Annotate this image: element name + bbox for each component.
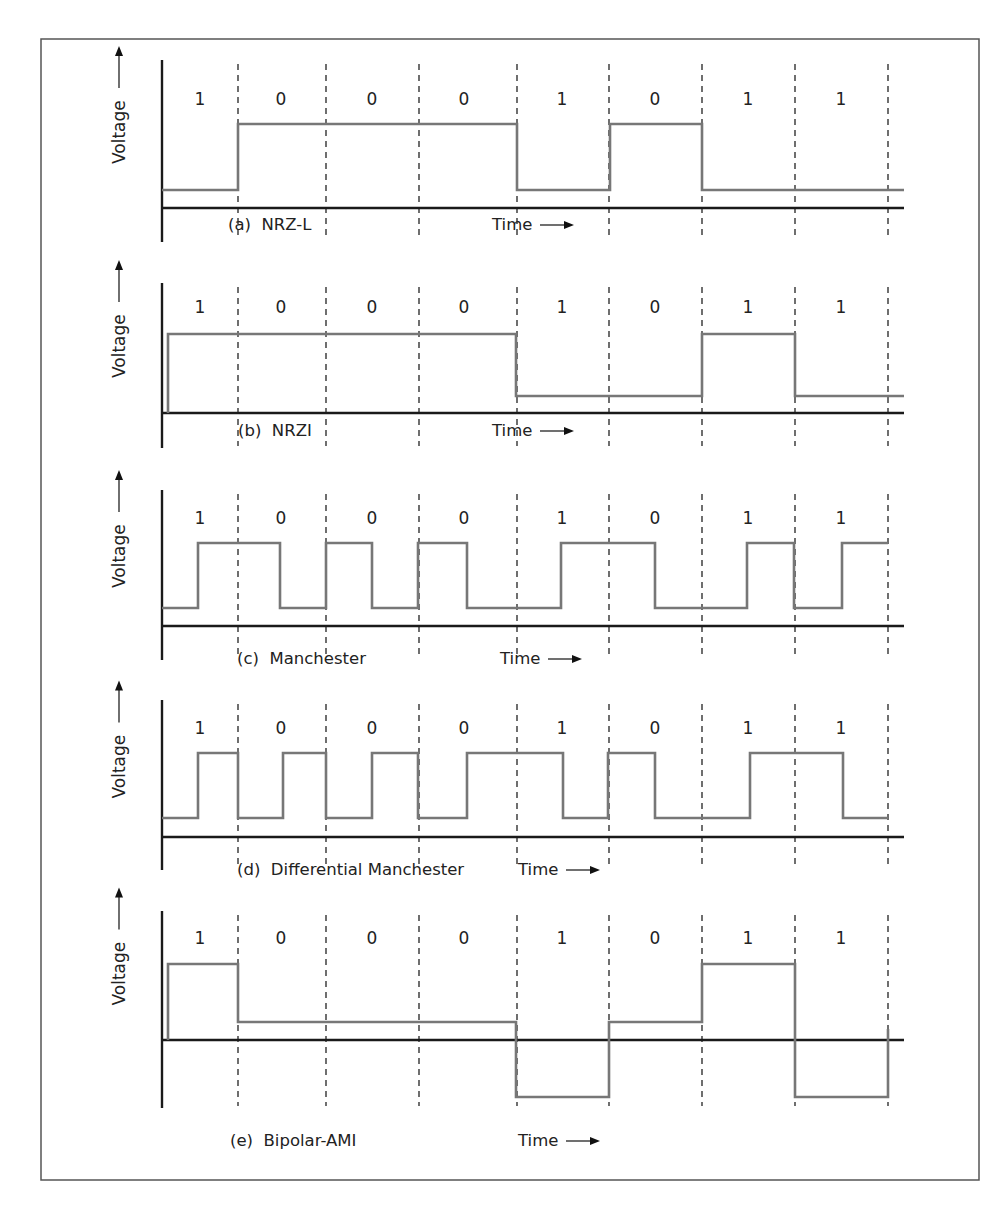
bit-label: 1 (557, 718, 568, 738)
bit-label: 1 (557, 89, 568, 109)
arrow-right-icon (564, 427, 574, 435)
panel-caption: (a) NRZ-L (228, 215, 312, 234)
bit-label: 0 (459, 718, 470, 738)
signal-waveform (168, 964, 888, 1097)
signal-waveform (162, 753, 888, 818)
bit-label: 1 (557, 508, 568, 528)
bit-label: 0 (367, 89, 378, 109)
arrow-up-icon (115, 681, 123, 691)
voltage-label: Voltage (109, 100, 129, 164)
signal-waveform (162, 543, 888, 608)
bit-label: 0 (459, 928, 470, 948)
bit-label: 1 (195, 928, 206, 948)
arrow-right-icon (572, 655, 582, 663)
bit-label: 1 (836, 928, 847, 948)
bit-label: 0 (276, 928, 287, 948)
bit-label: 0 (650, 508, 661, 528)
panel-caption: (b) NRZI (238, 421, 312, 440)
bit-label: 0 (650, 89, 661, 109)
panel-caption: (c) Manchester (237, 649, 366, 668)
bit-label: 0 (459, 89, 470, 109)
bit-label: 0 (459, 297, 470, 317)
signal-waveform (162, 124, 904, 190)
time-label: Time (491, 421, 532, 440)
bit-label: 0 (367, 928, 378, 948)
arrow-up-icon (115, 260, 123, 270)
panel-caption: (d) Differential Manchester (237, 860, 464, 879)
voltage-label: Voltage (109, 524, 129, 588)
bit-label: 0 (650, 928, 661, 948)
bit-label: 1 (743, 89, 754, 109)
voltage-label: Voltage (109, 314, 129, 378)
panel-caption: (e) Bipolar-AMI (230, 1131, 356, 1150)
time-label: Time (517, 860, 558, 879)
bit-label: 1 (836, 508, 847, 528)
arrow-up-icon (115, 46, 123, 56)
bit-label: 1 (195, 297, 206, 317)
arrow-up-icon (115, 888, 123, 898)
arrow-right-icon (590, 1137, 600, 1145)
bit-label: 0 (459, 508, 470, 528)
bit-label: 0 (367, 508, 378, 528)
bit-label: 0 (276, 508, 287, 528)
bit-label: 0 (650, 297, 661, 317)
panel-c: 10001011Voltage(c) ManchesterTime (109, 470, 904, 668)
time-label: Time (499, 649, 540, 668)
bit-label: 1 (195, 718, 206, 738)
bit-label: 0 (650, 718, 661, 738)
voltage-label: Voltage (109, 942, 129, 1006)
time-label: Time (517, 1131, 558, 1150)
bit-label: 0 (276, 718, 287, 738)
bit-label: 1 (836, 718, 847, 738)
bit-label: 1 (743, 718, 754, 738)
bit-label: 0 (367, 297, 378, 317)
voltage-label: Voltage (109, 735, 129, 799)
bit-label: 1 (836, 89, 847, 109)
arrow-right-icon (564, 221, 574, 229)
time-label: Time (491, 215, 532, 234)
panel-e: 10001011Voltage(e) Bipolar-AMITime (109, 888, 904, 1151)
panels-container: 10001011Voltage(a) NRZ-LTime10001011Volt… (109, 46, 904, 1150)
bit-label: 1 (195, 508, 206, 528)
bit-label: 1 (557, 297, 568, 317)
bit-label: 1 (195, 89, 206, 109)
line-coding-diagram: 10001011Voltage(a) NRZ-LTime10001011Volt… (0, 0, 1005, 1206)
bit-label: 1 (743, 297, 754, 317)
bit-label: 0 (276, 89, 287, 109)
panel-b: 10001011Voltage(b) NRZITime (109, 260, 904, 448)
bit-label: 0 (276, 297, 287, 317)
bit-label: 1 (836, 297, 847, 317)
panel-a: 10001011Voltage(a) NRZ-LTime (109, 46, 904, 242)
arrow-up-icon (115, 470, 123, 480)
panel-d: 10001011Voltage(d) Differential Manchest… (109, 681, 904, 880)
bit-label: 1 (743, 508, 754, 528)
arrow-right-icon (590, 866, 600, 874)
bit-label: 1 (743, 928, 754, 948)
bit-label: 1 (557, 928, 568, 948)
signal-waveform (168, 334, 904, 413)
figure-frame (41, 39, 979, 1180)
bit-label: 0 (367, 718, 378, 738)
